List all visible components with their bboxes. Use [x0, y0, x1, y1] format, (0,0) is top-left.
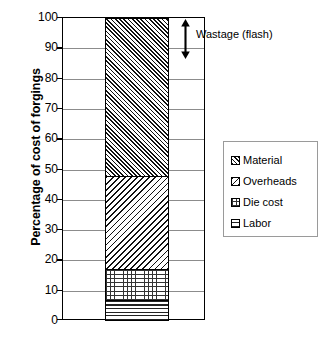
chart-figure: Percentage of cost of forgings 100 90 80…	[0, 0, 325, 339]
y-tick-label-50: 50	[28, 163, 58, 175]
stacked-bar	[105, 18, 169, 319]
legend-item-labor: Labor	[231, 213, 317, 234]
legend-label-die-cost: Die cost	[243, 197, 283, 208]
legend-swatch-material-icon	[231, 156, 240, 165]
y-tick-label-80: 80	[28, 72, 58, 84]
legend-item-overheads: Overheads	[231, 171, 317, 192]
bar-segment-overheads	[105, 176, 169, 270]
legend-item-die-cost: Die cost	[231, 192, 317, 213]
y-tick-label-10: 10	[28, 284, 58, 296]
legend-swatch-overheads-icon	[231, 177, 240, 186]
bar-segment-die-cost	[105, 269, 169, 299]
y-axis-tick-labels: 100 90 80 70 60 50 40 30 20 10 0	[26, 0, 58, 339]
legend-label-labor: Labor	[243, 218, 271, 229]
bar-segment-material	[105, 18, 169, 176]
legend-label-overheads: Overheads	[243, 176, 297, 187]
plot-area	[62, 17, 205, 320]
legend-swatch-labor-icon	[231, 219, 240, 228]
y-tick-label-60: 60	[28, 132, 58, 144]
y-tick-label-100: 100	[28, 11, 58, 23]
chart-legend: Material Overheads Die cost Labor	[223, 141, 318, 237]
bar-segment-labor	[105, 300, 169, 321]
y-tick-label-70: 70	[28, 102, 58, 114]
y-tick-label-90: 90	[28, 41, 58, 53]
y-tick-label-30: 30	[28, 223, 58, 235]
wastage-annotation-label: Wastage (flash)	[196, 28, 273, 40]
y-tick-label-0: 0	[28, 314, 58, 326]
y-tick-label-20: 20	[28, 253, 58, 265]
y-tick-label-40: 40	[28, 193, 58, 205]
legend-item-material: Material	[231, 150, 317, 171]
wastage-arrow-icon	[179, 19, 192, 59]
legend-label-material: Material	[243, 155, 282, 166]
legend-swatch-die-cost-icon	[231, 198, 240, 207]
